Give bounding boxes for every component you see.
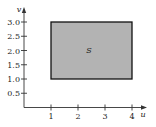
- uv-plane-diagram: S v u 0.5 1.0 1.5 2.0 2.5 3.0 1 2 3 4: [0, 0, 156, 127]
- y-axis-arrow-icon: [22, 7, 26, 13]
- x-tick-label: 2: [75, 112, 80, 121]
- x-tick-label: 4: [129, 112, 134, 121]
- x-tick-label: 3: [102, 112, 107, 121]
- y-tick-label: 2.0: [7, 47, 20, 56]
- y-tick-label: 1.5: [7, 61, 20, 70]
- y-tick-label: 3.0: [7, 18, 20, 27]
- y-tick-labels: 0.5 1.0 1.5 2.0 2.5 3.0: [7, 18, 20, 98]
- y-tick-label: 1.0: [7, 75, 20, 84]
- y-tick-label: 2.5: [7, 32, 20, 41]
- x-tick-labels: 1 2 3 4: [48, 112, 134, 121]
- x-tick-label: 1: [48, 112, 53, 121]
- x-axis-label: u: [140, 110, 145, 119]
- y-axis-label: v: [17, 5, 22, 14]
- y-tick-label: 0.5: [7, 89, 20, 98]
- region-label: S: [86, 46, 92, 55]
